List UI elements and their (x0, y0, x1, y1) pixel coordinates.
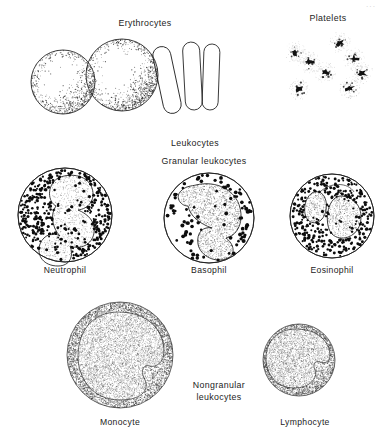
platelet (314, 62, 336, 82)
lymphocyte-nucleus (266, 329, 330, 388)
erythrocyte-edge-2 (182, 42, 203, 111)
erythrocyte-face-1 (31, 50, 96, 115)
erythrocytes-group: Erythrocytes (31, 18, 221, 115)
erythrocyte-edge-3 (202, 44, 220, 111)
erythrocytes-label: Erythrocytes (118, 18, 171, 28)
neutrophil-cell: Neutrophil (18, 168, 112, 275)
platelet (298, 51, 319, 73)
granular-leukocytes-label: Granular leukocytes (162, 156, 247, 166)
neutrophil-label: Neutrophil (44, 265, 87, 275)
blood-cell-diagram: ··· Erythrocytes Platelets Leukocytes Gr… (0, 0, 390, 439)
monocyte-nucleus (78, 312, 164, 400)
platelets-label: Platelets (310, 13, 347, 23)
eosinophil-cell: Eosinophil (290, 174, 374, 275)
leukocytes-label: Leukocytes (171, 138, 219, 148)
lymphocyte-label: Lymphocyte (280, 417, 330, 427)
platelet (352, 62, 373, 84)
platelet (289, 79, 309, 100)
erythrocyte-face-2 (86, 39, 159, 112)
nongranular-leukocytes-label-line1: Nongranular (193, 380, 245, 390)
eosinophil-nucleus (304, 185, 361, 239)
monocyte-label: Monocyte (100, 417, 140, 427)
lymphocyte-cell: Lymphocyte (263, 324, 336, 427)
platelet (329, 32, 351, 52)
eosinophil-label: Eosinophil (310, 265, 353, 275)
corner-mark: ··· (366, 3, 376, 10)
platelets-group: Platelets (286, 13, 373, 99)
nongranular-leukocytes-label-line2: leukocytes (196, 392, 241, 402)
platelet (286, 41, 306, 62)
monocyte-cell: Monocyte (67, 302, 174, 427)
neutrophil-nucleus (39, 175, 95, 266)
basophil-cell: Basophil (164, 173, 254, 275)
basophil-label: Basophil (191, 265, 227, 275)
